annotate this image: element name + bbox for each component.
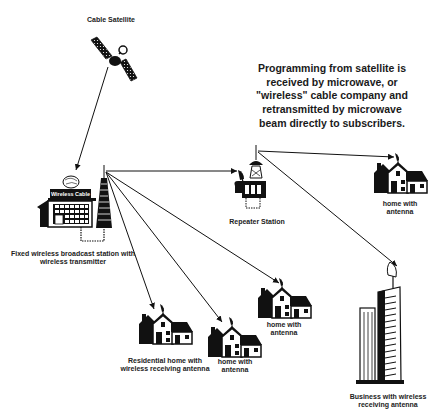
home-top-right-icon bbox=[374, 153, 428, 193]
description-line: "wireless" cable company and bbox=[232, 89, 432, 103]
business-label-line2: receiving antenna bbox=[340, 401, 436, 409]
home-lower-label-line1: home with bbox=[205, 358, 265, 366]
broadcast-station-building-icon bbox=[37, 176, 96, 227]
home-middle-label-line1: home with bbox=[254, 321, 314, 329]
business-building-icon bbox=[356, 262, 404, 384]
repeater-cable bbox=[246, 198, 260, 208]
home-top-right-label: home with antenna bbox=[370, 200, 430, 216]
beam-to-home-lower bbox=[106, 172, 222, 322]
satellite-label: Cable Satellite bbox=[76, 16, 146, 24]
description-line: beam directly to subscribers. bbox=[232, 117, 432, 131]
home-lower-label-line2: antenna bbox=[205, 366, 265, 374]
home-top-right-label-line2: antenna bbox=[370, 208, 430, 216]
beam-to-home-top-right bbox=[258, 151, 394, 157]
home-middle-label: home with antenna bbox=[254, 321, 314, 337]
description-line: received by microwave, or bbox=[232, 76, 432, 90]
repeater-station-label: Repeater Station bbox=[222, 218, 292, 226]
home-middle-icon bbox=[258, 278, 312, 318]
residential-home-label-line1: Residential home with bbox=[116, 357, 214, 365]
wireless-cable-sign: Wireless Cable bbox=[50, 191, 91, 197]
broadcast-station-label-line1: Fixed wireless broadcast station with bbox=[8, 250, 138, 258]
business-label: Business with wireless receiving antenna bbox=[340, 393, 436, 409]
repeater-station-icon bbox=[234, 145, 266, 198]
home-middle-label-line2: antenna bbox=[254, 329, 314, 337]
description-line: Programming from satellite is bbox=[232, 62, 432, 76]
satellite-downlink-arrow bbox=[76, 67, 108, 170]
residential-home-label-line2: wireless receiving antenna bbox=[116, 365, 214, 373]
home-top-right-label-line1: home with bbox=[370, 200, 430, 208]
business-label-line1: Business with wireless bbox=[340, 393, 436, 401]
residential-home-label: Residential home with wireless receiving… bbox=[116, 357, 214, 373]
broadcast-station-label: Fixed wireless broadcast station with wi… bbox=[8, 250, 138, 266]
wireless-cable-diagram: Cable Satellite Programming from satelli… bbox=[0, 0, 437, 419]
home-lower-label: home with antenna bbox=[205, 358, 265, 374]
description-line: retransmitted by microwave bbox=[232, 103, 432, 117]
description-text: Programming from satellite is received b… bbox=[232, 62, 432, 130]
broadcast-station-label-line2: wireless transmitter bbox=[8, 258, 138, 266]
satellite-icon bbox=[91, 37, 137, 81]
home-residential-icon bbox=[139, 304, 193, 344]
beam-to-residential-home bbox=[106, 172, 154, 309]
station-tower-cable bbox=[81, 227, 104, 241]
